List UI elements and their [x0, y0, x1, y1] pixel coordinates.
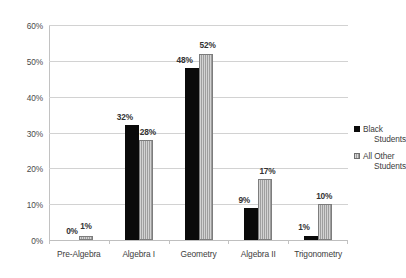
- legend-label-black-line1: Black: [363, 124, 383, 134]
- bar-group-pre-algebra: 0% 1%: [49, 25, 109, 240]
- legend-swatch-other-icon: [354, 153, 360, 159]
- bar-black-trigonometry[interactable]: [304, 236, 318, 240]
- bar-black-geometry[interactable]: [185, 68, 199, 240]
- y-tick-label-10: 10%: [0, 200, 43, 210]
- legend-label-other-line1: All Other: [363, 151, 394, 161]
- x-category-label-trigonometry: Trigonometry: [288, 249, 348, 259]
- bar-label-black-algebra-i: 32%: [117, 112, 133, 122]
- bar-chart: 0% 1% 32% 28% 48% 52% 9% 17% 1%: [0, 0, 406, 278]
- bar-group-algebra-ii: 9% 17%: [228, 25, 288, 240]
- bar-label-black-geometry: 48%: [177, 55, 193, 65]
- bar-label-other-trigonometry: 10%: [316, 191, 332, 201]
- x-category-label-pre-algebra: Pre-Algebra: [49, 249, 109, 259]
- bar-label-black-trigonometry: 1%: [298, 222, 310, 232]
- legend-entry-black-students[interactable]: Black Students: [354, 124, 406, 144]
- y-tick-label-20: 20%: [0, 164, 43, 174]
- bar-other-algebra-ii[interactable]: [258, 179, 272, 240]
- bar-label-other-pre-algebra: 1%: [71, 221, 101, 231]
- y-tick-label-0: 0%: [0, 236, 43, 246]
- x-category-label-geometry: Geometry: [169, 249, 229, 259]
- x-tick-2: [169, 240, 170, 244]
- bar-other-algebra-i[interactable]: [139, 140, 153, 240]
- x-tick-5: [347, 240, 348, 244]
- x-tick-4: [288, 240, 289, 244]
- x-tick-1: [109, 240, 110, 244]
- x-category-label-algebra-ii: Algebra II: [228, 249, 288, 259]
- x-tick-0: [49, 240, 50, 244]
- bar-black-algebra-i[interactable]: [125, 125, 139, 240]
- legend-entry-all-other-students[interactable]: All Other Students: [354, 151, 406, 171]
- bar-label-other-algebra-i: 28%: [140, 127, 156, 137]
- plot-area: 0% 1% 32% 28% 48% 52% 9% 17% 1%: [49, 25, 348, 240]
- gridline-0-baseline: [49, 240, 348, 241]
- bar-other-trigonometry[interactable]: [318, 204, 332, 240]
- bar-label-other-algebra-ii: 17%: [259, 166, 275, 176]
- y-tick-label-40: 40%: [0, 93, 43, 103]
- bar-label-black-algebra-ii: 9%: [238, 195, 250, 205]
- y-tick-label-50: 50%: [0, 57, 43, 67]
- x-category-label-algebra-i: Algebra I: [109, 249, 169, 259]
- x-tick-3: [228, 240, 229, 244]
- legend-label-black-line2: Students: [363, 134, 406, 144]
- bar-black-algebra-ii[interactable]: [244, 208, 258, 240]
- chart-legend: Black Students All Other Students: [354, 124, 406, 178]
- bar-label-other-geometry: 52%: [200, 40, 216, 50]
- legend-label-other-line2: Students: [363, 161, 406, 171]
- bar-group-algebra-i: 32% 28%: [109, 25, 169, 240]
- legend-swatch-black-icon: [354, 126, 360, 132]
- y-tick-label-60: 60%: [0, 21, 43, 31]
- y-tick-label-30: 30%: [0, 129, 43, 139]
- bar-other-pre-algebra[interactable]: [79, 236, 93, 240]
- bar-group-trigonometry: 1% 10%: [288, 25, 348, 240]
- bar-other-geometry[interactable]: [199, 54, 213, 240]
- bar-group-geometry: 48% 52%: [169, 25, 229, 240]
